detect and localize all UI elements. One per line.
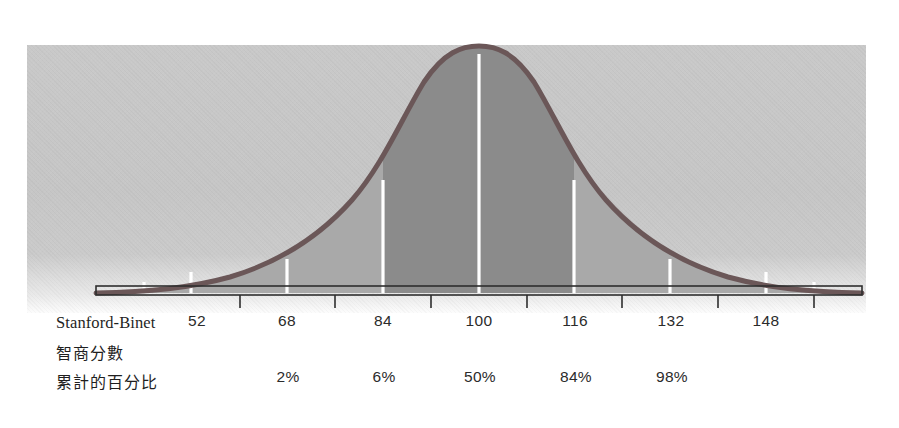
pct-label-84: 84% (560, 368, 592, 386)
axis-tick-marks (240, 295, 814, 308)
pct-label-6: 6% (372, 368, 395, 386)
pct-label-98: 98% (656, 368, 688, 386)
bell-curve-graphic (0, 0, 899, 428)
iq-distribution-figure: 52 68 84 100 116 132 148 2% 6% 50% 84% 9… (0, 0, 899, 428)
scale-name-label: Stanford-Binet (56, 313, 155, 333)
x-tick-label-148: 148 (753, 312, 780, 330)
x-tick-label-68: 68 (278, 312, 296, 330)
x-tick-label-100: 100 (466, 312, 493, 330)
x-tick-label-116: 116 (562, 312, 588, 330)
pct-label-50: 50% (464, 368, 496, 386)
iq-score-label: 智商分數 (56, 340, 124, 364)
pct-label-2: 2% (276, 368, 299, 386)
cumulative-percent-label: 累計的百分比 (56, 369, 158, 393)
divider-lines (144, 54, 814, 293)
x-tick-label-84: 84 (374, 312, 392, 330)
x-tick-label-132: 132 (658, 312, 685, 330)
x-tick-label-52: 52 (188, 312, 206, 330)
bell-curve-svg (0, 0, 899, 428)
